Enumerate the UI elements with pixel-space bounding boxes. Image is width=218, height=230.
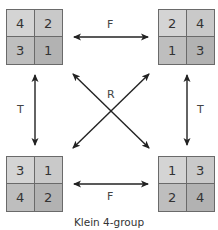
- label-center-R: R: [107, 88, 115, 101]
- caption: Klein 4-group: [0, 216, 218, 228]
- label-bottom-F: F: [107, 190, 113, 203]
- label-top-F: F: [107, 18, 113, 31]
- label-right-T: T: [197, 103, 204, 116]
- label-left-T: T: [17, 103, 24, 116]
